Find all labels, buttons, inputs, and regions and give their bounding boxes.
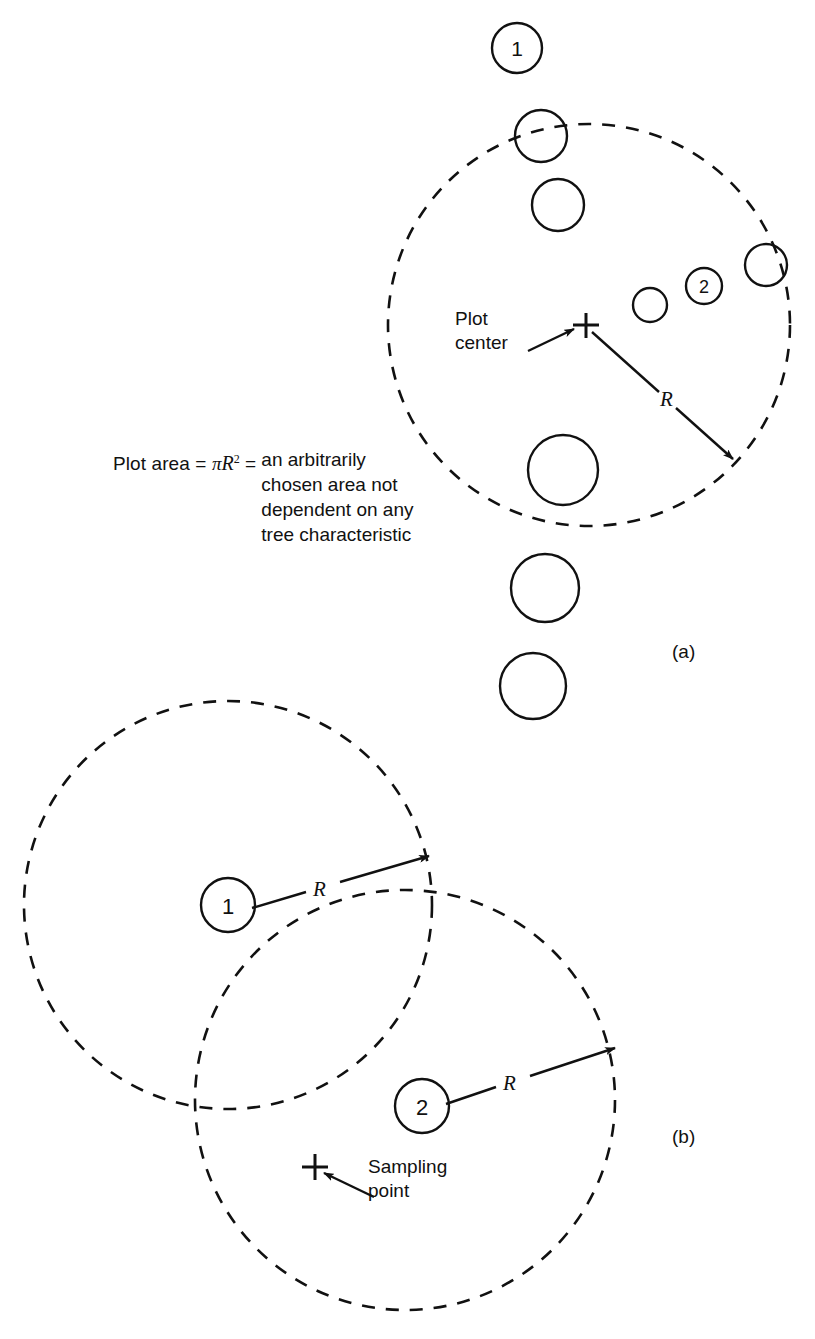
radius-arrow-b1-right xyxy=(340,856,429,882)
radius-arrow-b2-right xyxy=(530,1048,615,1076)
sampling-point-line-1: Sampling xyxy=(368,1155,447,1179)
radius-arrow-a-upper xyxy=(592,332,659,392)
tree-plot-circle-2 xyxy=(195,890,615,1310)
radius-arrow-a-lower xyxy=(676,408,733,459)
plot-area-lhs: Plot area = xyxy=(113,453,212,474)
radius-arrow-b2-left xyxy=(446,1087,496,1104)
figure-caption xyxy=(20,1322,810,1339)
plot-center-line-1: Plot xyxy=(455,307,508,331)
plot-area-equals: = xyxy=(240,453,262,474)
plot-center-leader xyxy=(528,329,574,351)
panel-a: 1 2 R xyxy=(388,23,790,719)
tree-circle xyxy=(515,110,567,162)
pi-symbol: π xyxy=(212,453,222,474)
tree-circle xyxy=(511,554,579,622)
tree-number-1-label: 1 xyxy=(511,37,523,60)
tree-circle xyxy=(532,179,584,231)
plot-area-formula-note: Plot area = πR2 = an arbitrarily chosen … xyxy=(113,447,413,547)
panel-label-b: (b) xyxy=(672,1126,695,1148)
radius-label-b2: R xyxy=(502,1071,516,1095)
radius-label-b1: R xyxy=(312,877,326,901)
sampling-point-leader xyxy=(324,1173,374,1197)
tree-number-2-label-b: 2 xyxy=(416,1095,428,1120)
plot-center-line-2: center xyxy=(455,331,508,355)
radius-label-a: R xyxy=(659,387,673,411)
radius-symbol: R xyxy=(221,452,233,474)
tree-circle xyxy=(528,435,598,505)
tree-number-2-label: 2 xyxy=(699,277,709,297)
tree-number-1-label-b: 1 xyxy=(222,894,234,919)
panel-b: 1 R 2 R xyxy=(24,701,615,1310)
tree-circle xyxy=(500,653,566,719)
radius-arrow-b1-left xyxy=(252,892,306,908)
panel-label-a: (a) xyxy=(672,641,695,663)
sampling-point-line-2: point xyxy=(368,1179,447,1203)
sampling-point-marker xyxy=(302,1154,328,1180)
tree-circle xyxy=(633,288,667,322)
plot-center-callout: Plot center xyxy=(455,307,508,355)
sampling-point-callout: Sampling point xyxy=(368,1155,447,1203)
plot-area-description: an arbitrarily chosen area not dependent… xyxy=(261,447,413,547)
figure-page: 1 2 R xyxy=(0,0,815,1339)
